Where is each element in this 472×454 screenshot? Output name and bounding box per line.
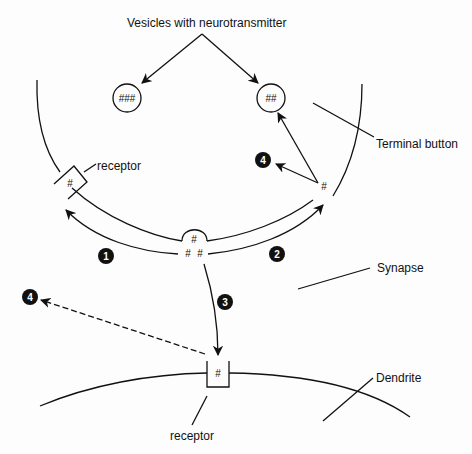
- terminal-button-leader: [313, 103, 374, 137]
- terminal-button-label: Terminal button: [376, 137, 458, 151]
- step-badge-1: 1: [98, 248, 114, 264]
- synapse-label: Synapse: [377, 261, 424, 275]
- arrow-to-left-vesicle: [142, 34, 202, 83]
- reuptake-molecule: #: [321, 181, 327, 192]
- terminal-membrane-bottom-left: [72, 188, 182, 241]
- step-badge-2: 2: [269, 246, 285, 262]
- arrow-step-1: [66, 210, 178, 254]
- vesicle-left: ###: [113, 84, 141, 112]
- vesicle-right-content: ##: [265, 93, 277, 104]
- synapse-diagram: Vesicles with neurotransmitter ### ## # …: [0, 0, 472, 454]
- arrow-to-right-vesicle: [202, 34, 258, 83]
- arrow-reuptake-to-vesicle: [278, 113, 318, 183]
- released-molecule-right: #: [197, 248, 203, 259]
- postsynaptic-receptor: #: [207, 361, 229, 387]
- vesicle-right: ##: [257, 84, 285, 112]
- arrow-step-2: [208, 205, 323, 254]
- vesicle-left-content: ###: [119, 93, 136, 104]
- step-badge-4a: 4: [255, 152, 271, 168]
- step-badge-3: 3: [217, 294, 233, 310]
- presynaptic-receptor-symbol: #: [67, 178, 73, 189]
- step-4a-label: 4: [260, 155, 266, 166]
- presynaptic-receptor-label: receptor: [97, 159, 141, 173]
- step-badge-4b: 4: [22, 289, 38, 305]
- released-molecule-left: #: [185, 248, 191, 259]
- released-molecule-top: #: [191, 234, 197, 245]
- arrow-reuptake-step-4: [276, 164, 318, 183]
- step-4b-label: 4: [27, 292, 33, 303]
- step-2-label: 2: [274, 249, 280, 260]
- vesicles-label: Vesicles with neurotransmitter: [127, 16, 286, 30]
- postsynaptic-receptor-label: receptor: [170, 429, 214, 443]
- synapse-leader: [298, 268, 370, 289]
- postsynaptic-receptor-leader: [192, 396, 207, 425]
- presynaptic-receptor-leader: [84, 164, 96, 172]
- arrow-step-3: [204, 264, 218, 355]
- terminal-membrane-right-upper: [333, 84, 362, 196]
- arrow-diffusion-step-4: [41, 300, 205, 354]
- diagram-svg: Vesicles with neurotransmitter ### ## # …: [0, 0, 472, 454]
- terminal-membrane-left-upper: [37, 80, 60, 172]
- dendrite-label: Dendrite: [376, 371, 422, 385]
- terminal-membrane-bottom-right: [207, 200, 313, 241]
- postsynaptic-receptor-symbol: #: [215, 368, 221, 379]
- step-3-label: 3: [222, 297, 228, 308]
- step-1-label: 1: [103, 251, 109, 262]
- dendrite-membrane-left: [40, 373, 207, 406]
